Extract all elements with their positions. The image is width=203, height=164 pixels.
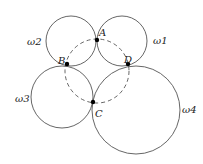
- point-a: [95, 38, 99, 42]
- point-c: [91, 100, 95, 104]
- four-circles-diagram: A B C D ω1 ω2 ω3 ω4: [0, 0, 203, 164]
- label-b: B: [57, 55, 65, 66]
- label-c: C: [95, 108, 103, 119]
- label-omega-1: ω1: [153, 35, 168, 46]
- circle-omega-2: [46, 16, 96, 66]
- point-b: [65, 62, 69, 66]
- circle-omega-4: [92, 66, 180, 154]
- label-omega-3: ω3: [15, 93, 30, 104]
- label-omega-4: ω4: [182, 104, 197, 115]
- circle-omega-3: [31, 66, 93, 128]
- label-d: D: [123, 54, 132, 65]
- label-omega-2: ω2: [27, 36, 42, 47]
- circle-omega-1: [97, 16, 147, 66]
- dashed-circle-abcd: [65, 39, 129, 103]
- label-a: A: [98, 27, 106, 38]
